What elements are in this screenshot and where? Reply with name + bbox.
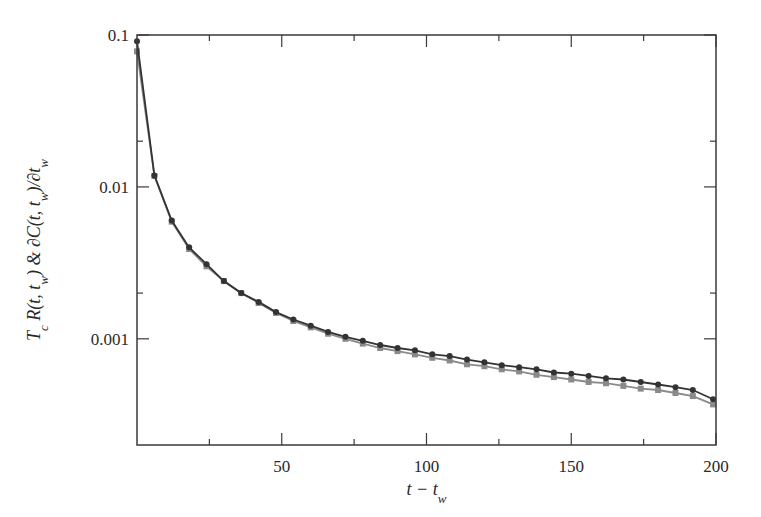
circle-marker xyxy=(256,299,262,305)
circle-marker xyxy=(151,172,157,178)
circle-marker xyxy=(534,366,540,372)
square-marker xyxy=(690,393,696,399)
circle-marker xyxy=(690,387,696,393)
circle-marker xyxy=(203,261,209,267)
x-tick-label: 200 xyxy=(703,457,729,476)
square-marker xyxy=(568,376,574,382)
series-layer xyxy=(134,38,716,407)
circle-marker xyxy=(603,375,609,381)
x-tick-label: 150 xyxy=(559,457,585,476)
circle-marker xyxy=(464,357,470,363)
square-marker xyxy=(655,387,661,393)
circle-marker xyxy=(586,373,592,379)
square-marker xyxy=(586,379,592,385)
y-axis-label: Tc R(t, tw) & ∂C(t, tw)/∂tw xyxy=(24,159,51,341)
x-tick-label: 50 xyxy=(273,457,290,476)
circle-marker xyxy=(377,342,383,348)
circle-marker xyxy=(273,309,279,315)
circle-marker xyxy=(360,338,366,344)
circle-marker xyxy=(551,370,557,376)
y-tick-label: 0.001 xyxy=(91,330,129,349)
series-line xyxy=(137,41,713,399)
circle-marker xyxy=(325,329,331,335)
circle-marker xyxy=(412,347,418,353)
circle-marker xyxy=(395,345,401,351)
circle-marker xyxy=(568,371,574,377)
square-marker xyxy=(672,390,678,396)
x-axis-label: t − tw xyxy=(407,479,447,506)
circle-marker xyxy=(290,317,296,323)
circle-marker xyxy=(672,384,678,390)
circle-marker xyxy=(499,362,505,368)
circle-marker xyxy=(429,351,435,357)
square-marker xyxy=(710,401,716,407)
circle-marker xyxy=(308,323,314,329)
circle-marker xyxy=(221,278,227,284)
axis-ticks xyxy=(137,35,716,445)
chart-svg: 501001502000.10.010.001 t − tw Tc R(t, t… xyxy=(0,0,761,517)
square-marker xyxy=(638,386,644,392)
circle-marker xyxy=(186,244,192,250)
x-tick-label: 100 xyxy=(414,457,440,476)
series-response xyxy=(134,38,716,402)
circle-marker xyxy=(447,353,453,359)
circle-marker xyxy=(655,382,661,388)
square-marker xyxy=(620,383,626,389)
chart: 501001502000.10.010.001 t − tw Tc R(t, t… xyxy=(0,0,761,517)
circle-marker xyxy=(481,359,487,365)
y-tick-label: 0.1 xyxy=(108,26,129,45)
circle-marker xyxy=(710,396,716,402)
circle-marker xyxy=(342,334,348,340)
series-line xyxy=(137,51,713,404)
circle-marker xyxy=(620,376,626,382)
plot-frame xyxy=(137,35,716,445)
y-tick-label: 0.01 xyxy=(99,178,129,197)
square-marker xyxy=(534,372,540,378)
circle-marker xyxy=(169,218,175,224)
circle-marker xyxy=(238,290,244,296)
circle-marker xyxy=(638,379,644,385)
circle-marker xyxy=(516,364,522,370)
